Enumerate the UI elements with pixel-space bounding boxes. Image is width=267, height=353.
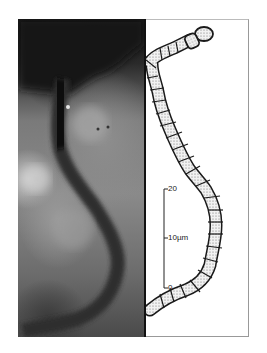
scale-label-mid: 10µm	[168, 234, 188, 242]
figure: 20 10µm 0	[18, 19, 249, 337]
photomicrograph	[18, 19, 144, 337]
filament-drawing: 20 10µm 0	[146, 19, 249, 337]
scale-label-top: 20	[168, 185, 177, 193]
scale-label-bottom: 0	[168, 284, 172, 292]
